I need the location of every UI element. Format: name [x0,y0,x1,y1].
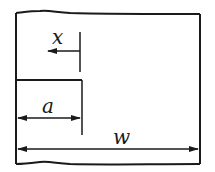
crack-specimen-diagram: x a w [0,0,215,172]
specimen-outline [16,11,200,165]
top-break-line [16,11,200,14]
bottom-break-line [16,162,200,165]
x-label: x [52,25,63,49]
w-label: w [113,125,130,149]
a-label: a [42,94,54,118]
